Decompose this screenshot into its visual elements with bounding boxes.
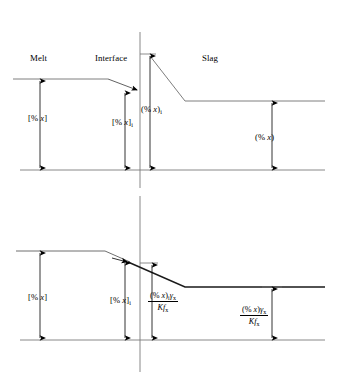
top-label-interface-slag: (% x)i: [141, 105, 162, 114]
fraction-denominator: Kfx: [148, 301, 178, 312]
top-label-bulk-slag: (% x): [255, 133, 274, 142]
top-panel-lines: [13, 32, 325, 188]
bottom-label-interface-melt: [% x]i: [110, 296, 131, 305]
interface-leader-arrow: [108, 79, 137, 90]
bottom-fraction-interface-activity: (% x)iγx Kfx: [148, 291, 178, 312]
region-label-melt: Melt: [30, 54, 47, 63]
top-label-interface-melt: [% x]i: [112, 118, 133, 127]
bottom-panel-lines: [16, 196, 325, 372]
fraction-denominator: Kfx: [240, 315, 268, 326]
bottom-label-bulk-melt: [% x]: [28, 293, 47, 302]
top-profile-slag: [150, 56, 325, 101]
fraction-numerator: (% x)iγx: [148, 291, 178, 301]
region-label-slag: Slag: [202, 54, 218, 63]
concentration-profile-figure: Melt Interface Slag [% x] [% x]i (% x)i …: [0, 0, 339, 385]
fraction-numerator: (% x)γx: [240, 305, 268, 315]
figure-lines: [0, 0, 339, 385]
bottom-profile-melt: [16, 251, 130, 262]
bottom-profile-slag: [128, 262, 325, 287]
top-label-bulk-melt: [% x]: [28, 114, 47, 123]
region-label-interface: Interface: [95, 54, 127, 63]
bottom-fraction-bulk-activity: (% x)γx Kfx: [240, 305, 268, 326]
